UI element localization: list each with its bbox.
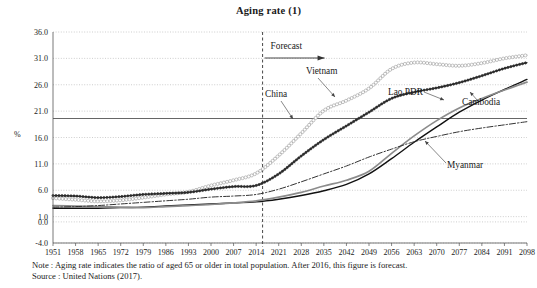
series-marker bbox=[148, 193, 150, 195]
series-marker bbox=[386, 100, 388, 102]
series-marker bbox=[193, 191, 195, 193]
series-marker bbox=[514, 55, 517, 58]
series-label-lao-pdr: Lao PDR bbox=[388, 87, 424, 97]
series-marker bbox=[119, 199, 122, 202]
series-china bbox=[51, 54, 527, 203]
series-marker bbox=[363, 114, 365, 116]
series-marker bbox=[403, 62, 406, 65]
series-marker bbox=[470, 63, 473, 66]
series-marker bbox=[258, 183, 260, 185]
series-marker bbox=[293, 161, 295, 163]
series-marker bbox=[196, 190, 198, 192]
series-marker bbox=[455, 82, 457, 84]
x-tick-label: 2091 bbox=[496, 248, 512, 257]
series-marker bbox=[524, 54, 527, 57]
series-marker bbox=[225, 180, 228, 183]
series-marker bbox=[360, 116, 362, 118]
series-marker bbox=[332, 133, 334, 135]
series-marker bbox=[74, 198, 77, 201]
series-marker bbox=[219, 182, 222, 185]
series-marker bbox=[225, 186, 227, 188]
series-marker bbox=[61, 195, 63, 197]
series-marker bbox=[492, 59, 495, 62]
series-marker bbox=[160, 192, 162, 194]
series-marker bbox=[467, 79, 469, 81]
series-marker bbox=[365, 113, 367, 115]
series-marker bbox=[77, 198, 80, 201]
series-marker bbox=[76, 195, 78, 197]
x-tick-label: 2014 bbox=[248, 248, 264, 257]
series-marker bbox=[319, 141, 321, 143]
series-marker bbox=[317, 142, 319, 144]
series-marker bbox=[461, 81, 463, 83]
series-marker bbox=[232, 179, 235, 182]
series-marker bbox=[213, 183, 216, 186]
series-marker bbox=[61, 197, 64, 200]
aging-rate-line-chart: 36.031.026.021.016.011.06.01.00.0-4.0 19… bbox=[0, 0, 537, 288]
series-marker bbox=[416, 61, 419, 64]
series-marker bbox=[484, 74, 486, 76]
series-marker bbox=[423, 89, 425, 91]
series-marker bbox=[457, 64, 460, 67]
series-marker bbox=[324, 137, 326, 139]
series-marker bbox=[172, 192, 174, 194]
series-marker bbox=[201, 189, 203, 191]
series-marker bbox=[481, 75, 483, 77]
series-marker bbox=[163, 192, 165, 194]
series-marker bbox=[106, 200, 109, 203]
series-marker bbox=[249, 185, 251, 187]
series-marker bbox=[495, 70, 497, 72]
series-marker bbox=[240, 185, 242, 187]
series-marker bbox=[516, 64, 518, 66]
series-marker bbox=[483, 61, 486, 64]
series-marker bbox=[347, 123, 349, 125]
x-tick-label: 2056 bbox=[384, 248, 400, 257]
series-marker bbox=[274, 175, 276, 177]
note-line-2: Source : United Nations (2017). bbox=[32, 271, 532, 282]
series-marker bbox=[244, 176, 247, 179]
series-marker bbox=[452, 83, 454, 85]
series-marker bbox=[378, 104, 380, 106]
series-marker bbox=[498, 58, 501, 61]
series-marker bbox=[238, 177, 241, 180]
y-tick-label: 21.0 bbox=[34, 107, 48, 116]
x-tick-label: 2098 bbox=[519, 248, 535, 257]
series-marker bbox=[493, 71, 495, 73]
x-tick-label: 2000 bbox=[203, 248, 219, 257]
series-marker bbox=[228, 186, 230, 188]
series-marker bbox=[400, 63, 403, 66]
series-marker bbox=[397, 64, 400, 67]
series-marker bbox=[464, 80, 466, 82]
x-tick-label: 2063 bbox=[406, 248, 422, 257]
series-marker bbox=[358, 117, 360, 119]
series-marker bbox=[478, 75, 480, 77]
x-tick-label: 1972 bbox=[113, 248, 129, 257]
series-marker bbox=[67, 195, 69, 197]
series-marker bbox=[121, 195, 123, 197]
series-marker bbox=[96, 200, 99, 203]
series-marker bbox=[133, 194, 135, 196]
series-vietnam bbox=[52, 62, 527, 199]
series-marker bbox=[187, 191, 189, 193]
x-tick-label: 2077 bbox=[451, 248, 467, 257]
series-marker bbox=[145, 193, 147, 195]
y-tick-label: -4.0 bbox=[35, 239, 48, 248]
series-marker bbox=[231, 186, 233, 188]
series-marker bbox=[498, 69, 500, 71]
x-tick-label: 1951 bbox=[45, 248, 61, 257]
series-marker bbox=[279, 172, 281, 174]
series-marker bbox=[213, 188, 215, 190]
series-marker bbox=[426, 62, 429, 65]
series-marker bbox=[71, 198, 74, 201]
y-tick-label: 16.0 bbox=[34, 134, 48, 143]
series-marker bbox=[335, 103, 338, 106]
series-marker bbox=[302, 153, 304, 155]
series-marker bbox=[442, 63, 445, 66]
series-marker bbox=[175, 192, 177, 194]
series-marker bbox=[454, 64, 457, 67]
series-marker bbox=[438, 86, 440, 88]
series-marker bbox=[118, 196, 120, 198]
series-marker bbox=[432, 62, 435, 65]
series-marker bbox=[82, 195, 84, 197]
series-marker bbox=[103, 196, 105, 198]
